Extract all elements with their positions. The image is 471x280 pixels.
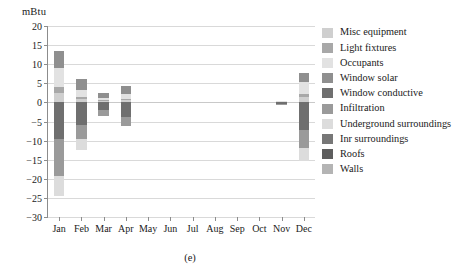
bar-segment <box>121 94 132 99</box>
x-tick-mark <box>81 217 82 221</box>
y-tick-label: −30 <box>26 212 42 223</box>
bar-segment <box>121 102 132 117</box>
y-axis-unit-label: mBtu <box>22 6 46 17</box>
legend-label: Infiltration <box>340 103 385 113</box>
x-tick-label-mar: Mar <box>95 223 112 234</box>
bar-column-nov[interactable] <box>276 26 287 217</box>
bar-column-feb[interactable] <box>76 26 87 217</box>
legend-swatch-icon <box>322 58 333 68</box>
legend-item[interactable]: Roofs <box>322 147 468 162</box>
bar-column-aug[interactable] <box>210 26 221 217</box>
legend-item[interactable]: Window solar <box>322 71 468 86</box>
bar-segment <box>121 86 132 94</box>
x-tick-mark <box>170 217 171 221</box>
y-tick-label: 10 <box>32 59 42 70</box>
legend-swatch-icon <box>322 43 333 53</box>
x-tick-label-oct: Oct <box>252 223 266 234</box>
y-tick-label: 20 <box>32 21 42 32</box>
bar-segment <box>54 87 65 93</box>
legend-item[interactable]: Walls <box>322 162 468 177</box>
legend-item[interactable]: Window conductive <box>322 86 468 101</box>
bar-column-sep[interactable] <box>232 26 243 217</box>
bar-segment <box>54 93 65 102</box>
legend-label: Underground surroundings <box>340 119 451 129</box>
bar-segment <box>76 102 87 125</box>
gridline--30 <box>48 217 315 218</box>
legend-label: Window conductive <box>340 88 423 98</box>
bar-segment <box>276 104 287 106</box>
bar-segment <box>54 176 65 196</box>
bar-segment <box>54 102 65 139</box>
x-tick-label-may: May <box>139 223 157 234</box>
bar-segment <box>76 139 87 150</box>
legend-item[interactable]: Light fixtures <box>322 40 468 55</box>
bar-column-apr[interactable] <box>121 26 132 217</box>
bar-segment <box>299 94 310 98</box>
bar-segment <box>98 100 109 101</box>
bar-segment <box>299 82 310 93</box>
figure-container: mBtu 20151050−5−10−15−20−25−30 JanFebMar… <box>0 0 471 280</box>
x-tick-label-dec: Dec <box>296 223 312 234</box>
bar-segment <box>54 139 65 176</box>
bar-column-mar[interactable] <box>98 26 109 217</box>
x-tick-mark <box>59 217 60 221</box>
y-tick-label: 15 <box>32 40 42 51</box>
bar-column-oct[interactable] <box>254 26 265 217</box>
y-tick-label: −25 <box>26 192 42 203</box>
legend-swatch-icon <box>322 164 333 174</box>
bar-column-dec[interactable] <box>299 26 310 217</box>
legend-swatch-icon <box>322 134 333 144</box>
y-tick-label: −10 <box>26 135 42 146</box>
plot-area: 20151050−5−10−15−20−25−30 JanFebMarAprMa… <box>47 26 315 218</box>
legend-label: Light fixtures <box>340 43 396 53</box>
bar-segment <box>76 79 87 90</box>
legend-item[interactable]: Occupants <box>322 55 468 70</box>
legend-label: Occupants <box>340 58 383 68</box>
x-tick-label-nov: Nov <box>273 223 290 234</box>
bar-segment <box>98 102 109 110</box>
x-tick-label-feb: Feb <box>74 223 89 234</box>
x-tick-mark <box>148 217 149 221</box>
x-tick-label-jun: Jun <box>163 223 177 234</box>
bar-segment <box>76 97 87 99</box>
y-tick-label: 0 <box>37 97 42 108</box>
x-tick-mark <box>126 217 127 221</box>
bar-column-jun[interactable] <box>165 26 176 217</box>
bar-segment <box>299 130 310 148</box>
y-tick-label: 5 <box>37 78 42 89</box>
legend-item[interactable]: Underground surroundings <box>322 116 468 131</box>
bar-segment <box>299 148 310 161</box>
x-tick-mark <box>215 217 216 221</box>
legend-label: Inr surroundings <box>340 134 408 144</box>
bar-segment <box>98 110 109 115</box>
legend-label: Misc equipment <box>340 27 407 37</box>
bar-segment <box>54 51 65 67</box>
x-tick-mark <box>193 217 194 221</box>
legend-label: Roofs <box>340 149 365 159</box>
x-tick-mark <box>304 217 305 221</box>
bar-column-jan[interactable] <box>54 26 65 217</box>
legend-item[interactable]: Inr surroundings <box>322 131 468 146</box>
bars-group <box>48 26 315 217</box>
x-tick-label-aug: Aug <box>206 223 223 234</box>
legend-swatch-icon <box>322 88 333 98</box>
bar-segment <box>98 98 109 100</box>
legend-item[interactable]: Misc equipment <box>322 25 468 40</box>
x-tick-label-jul: Jul <box>187 223 199 234</box>
legend-swatch-icon <box>322 119 333 129</box>
legend-item[interactable]: Infiltration <box>322 101 468 116</box>
y-tick-label: −20 <box>26 173 42 184</box>
legend-swatch-icon <box>322 149 333 159</box>
legend-swatch-icon <box>322 73 333 83</box>
bar-segment <box>98 93 109 98</box>
bar-segment <box>299 102 310 130</box>
x-tick-label-apr: Apr <box>118 223 134 234</box>
bar-column-may[interactable] <box>143 26 154 217</box>
bar-segment <box>121 99 132 101</box>
legend-label: Window solar <box>340 73 398 83</box>
legend-swatch-icon <box>322 104 333 114</box>
figure-caption: (e) <box>0 252 380 263</box>
bar-segment <box>54 68 65 87</box>
y-tick-label: −15 <box>26 154 42 165</box>
bar-column-jul[interactable] <box>187 26 198 217</box>
